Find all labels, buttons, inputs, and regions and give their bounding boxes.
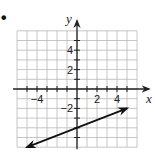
x-tick-label: −4 xyxy=(31,93,44,105)
coordinate-plane: −42442−2xy xyxy=(0,0,156,156)
x-tick-label: 4 xyxy=(114,93,120,105)
x-axis-label: x xyxy=(145,91,152,106)
x-tick-label: 2 xyxy=(94,93,100,105)
y-tick-label: 2 xyxy=(67,64,73,76)
y-tick-label: 4 xyxy=(67,44,73,56)
y-axis-label: y xyxy=(64,11,72,26)
y-tick-label: −2 xyxy=(60,102,73,114)
axes xyxy=(13,21,149,149)
bullet-marker: • xyxy=(0,9,8,28)
